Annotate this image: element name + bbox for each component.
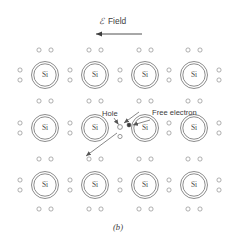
bond-electron	[149, 207, 153, 211]
bond-electron	[18, 131, 22, 135]
bond-electron	[167, 188, 171, 192]
bond-electron	[49, 99, 53, 103]
silicon-atom: Si	[32, 172, 59, 199]
silicon-atom: Si	[132, 115, 159, 142]
hole-leader-line	[114, 118, 119, 125]
bond-electron	[149, 157, 153, 161]
silicon-atom: Si	[32, 115, 59, 142]
bond-electron	[68, 131, 72, 135]
bond-electron	[37, 157, 41, 161]
bond-electron	[186, 99, 190, 103]
bond-electron	[217, 178, 221, 182]
bond-electron	[186, 207, 190, 211]
hole-marker	[118, 125, 123, 130]
bond-electron	[37, 48, 41, 52]
atom-label: Si	[142, 70, 148, 79]
free-electron-label: Free electron	[152, 108, 197, 117]
bond-electron	[18, 178, 22, 182]
bond-electron	[167, 78, 171, 82]
figure-caption: (b)	[113, 222, 123, 232]
bond-electron	[217, 68, 221, 72]
bond-electron	[137, 48, 141, 52]
atom-label: Si	[191, 123, 197, 132]
bond-electron	[198, 157, 202, 161]
bond-electron	[99, 207, 103, 211]
atom-label: Si	[142, 180, 148, 189]
silicon-atom: Si	[132, 172, 159, 199]
bond-electron	[118, 68, 122, 72]
bond-electron	[217, 188, 221, 192]
bond-electron	[87, 48, 91, 52]
field-symbol: ℰ	[99, 16, 105, 26]
silicon-atom: Si	[132, 62, 159, 89]
bond-electron	[217, 78, 221, 82]
silicon-atom: Si	[82, 172, 109, 199]
bond-electron	[149, 48, 153, 52]
bond-electron	[68, 188, 72, 192]
carrier-pair-group	[118, 123, 131, 138]
atom-label: Si	[92, 123, 98, 132]
bond-electron	[99, 99, 103, 103]
silicon-atom: Si	[181, 62, 208, 89]
bond-electron	[99, 157, 103, 161]
bond-electron	[217, 131, 221, 135]
silicon-atom: Si	[82, 62, 109, 89]
bond-electron	[118, 78, 122, 82]
silicon-atom: Si	[32, 62, 59, 89]
bond-electron	[186, 48, 190, 52]
free-electron-marker	[127, 123, 131, 127]
bond-electron	[137, 207, 141, 211]
silicon-atom: Si	[181, 172, 208, 199]
bond-electron	[167, 68, 171, 72]
bond-electron	[217, 121, 221, 125]
bond-electron	[68, 68, 72, 72]
hole-label: Hole	[102, 109, 118, 118]
atom-label: Si	[92, 180, 98, 189]
bond-electron	[68, 178, 72, 182]
bond-electron	[37, 99, 41, 103]
bond-electron	[99, 48, 103, 52]
atom-label: Si	[92, 70, 98, 79]
atom-label: Si	[42, 123, 48, 132]
bond-electron	[87, 157, 91, 161]
bond-electron	[37, 207, 41, 211]
electric-field-group: ℰ Field	[96, 16, 142, 34]
bond-electron	[186, 157, 190, 161]
bond-electron	[137, 99, 141, 103]
silicon-atom: Si	[82, 115, 109, 142]
bond-electron	[198, 99, 202, 103]
atom-label: Si	[191, 180, 197, 189]
field-label: Field	[108, 16, 126, 26]
bond-electron	[137, 157, 141, 161]
bond-electron	[149, 99, 153, 103]
bond-electron	[118, 134, 122, 138]
bond-electron	[87, 207, 91, 211]
bond-electron	[167, 178, 171, 182]
atom-label: Si	[42, 180, 48, 189]
bond-electron	[49, 157, 53, 161]
bond-electron	[68, 78, 72, 82]
atom-label: Si	[191, 70, 197, 79]
bond-electron	[118, 178, 122, 182]
bond-electron	[167, 121, 171, 125]
atom-label: Si	[142, 123, 148, 132]
silicon-atom: Si	[181, 115, 208, 142]
bond-electron	[49, 48, 53, 52]
bond-electron	[118, 188, 122, 192]
bond-electron	[18, 68, 22, 72]
semiconductor-lattice-figure: ℰ Field	[0, 0, 236, 251]
bond-electron	[18, 78, 22, 82]
bond-electron	[87, 99, 91, 103]
bond-electron	[198, 207, 202, 211]
bond-electron	[198, 48, 202, 52]
bond-electron	[167, 131, 171, 135]
atom-label: Si	[42, 70, 48, 79]
lattice-diagram-svg: ℰ Field	[0, 0, 236, 251]
bond-electron	[18, 121, 22, 125]
bond-electron	[68, 121, 72, 125]
bond-electron	[49, 207, 53, 211]
bond-electron	[18, 188, 22, 192]
